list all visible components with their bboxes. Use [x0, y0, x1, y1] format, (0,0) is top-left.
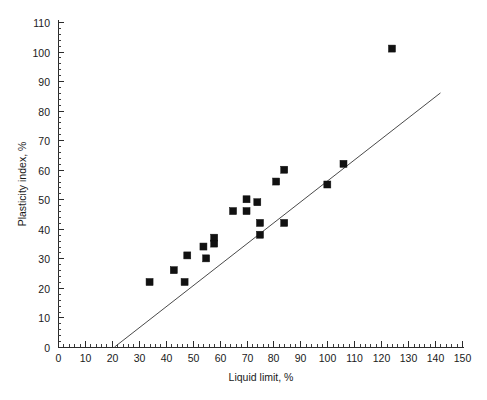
- data-point-marker: [200, 243, 207, 250]
- trend-line: [115, 93, 441, 347]
- data-point-marker: [273, 178, 280, 185]
- y-axis-tick-label: 90: [38, 76, 50, 88]
- data-point-marker: [243, 208, 250, 215]
- x-axis-tick-label: 80: [268, 352, 280, 364]
- y-axis-tick-labels: 0102030405060708090100110: [32, 17, 50, 354]
- x-axis-tick-label: 130: [400, 352, 418, 364]
- y-axis-title: Plasticity index, %: [16, 142, 28, 227]
- x-axis-tick-label: 20: [107, 352, 119, 364]
- y-axis-tick-label: 70: [38, 135, 50, 147]
- x-axis-tick-label: 10: [80, 352, 92, 364]
- data-point-marker: [243, 196, 250, 203]
- data-point-marker: [340, 160, 347, 167]
- x-axis-tick-label: 90: [295, 352, 307, 364]
- data-point-marker: [281, 166, 288, 173]
- x-axis-title: Liquid limit, %: [229, 371, 294, 383]
- data-point-marker: [257, 219, 264, 226]
- data-point-marker: [181, 279, 188, 286]
- data-point-marker: [388, 45, 395, 52]
- x-axis-tick-label: 50: [188, 352, 200, 364]
- y-axis-tick-label: 40: [38, 224, 50, 236]
- x-axis-tick-label: 150: [454, 352, 472, 364]
- data-point-marker: [203, 255, 210, 262]
- axis-lines: [58, 20, 464, 347]
- y-axis-tick-label: 0: [44, 342, 50, 354]
- x-axis-tick-label: 110: [346, 352, 363, 364]
- trend-line-group: [115, 93, 441, 347]
- data-point-marker: [146, 279, 153, 286]
- x-axis-tick-label: 60: [215, 352, 227, 364]
- data-point-marker: [170, 267, 177, 274]
- chart-figure: 0102030405060708090100110120130140150 01…: [0, 0, 487, 400]
- y-axis-tick-label: 20: [38, 283, 50, 295]
- x-axis-tick-label: 30: [134, 352, 146, 364]
- y-axis-tick-label: 80: [38, 106, 50, 118]
- y-axis-tick-label: 110: [33, 17, 50, 29]
- y-axis-tick-label: 30: [38, 253, 50, 265]
- x-axis-tick-label: 0: [56, 352, 62, 364]
- y-axis-tick-label: 10: [38, 312, 50, 324]
- data-point-marker: [257, 231, 264, 238]
- x-axis-tick-label: 40: [161, 352, 173, 364]
- data-point-marker: [211, 240, 218, 247]
- y-axis-tick-label: 60: [38, 165, 50, 177]
- x-axis-tick-labels: 0102030405060708090100110120130140150: [56, 352, 472, 364]
- data-point-markers: [146, 45, 395, 285]
- data-point-marker: [254, 199, 261, 206]
- x-axis-tick-label: 120: [373, 352, 391, 364]
- x-axis-tick-label: 70: [242, 352, 254, 364]
- data-point-marker: [281, 219, 288, 226]
- scatter-plot-svg: 0102030405060708090100110120130140150 01…: [0, 0, 487, 400]
- y-axis-tick-label: 50: [38, 194, 50, 206]
- y-axis-tick-label: 100: [32, 47, 50, 59]
- x-axis-tick-label: 140: [427, 352, 445, 364]
- data-point-marker: [230, 208, 237, 215]
- data-point-marker: [324, 181, 331, 188]
- x-axis-tick-label: 100: [319, 352, 337, 364]
- y-axis-major-ticks: [58, 23, 64, 348]
- data-point-marker: [184, 252, 191, 259]
